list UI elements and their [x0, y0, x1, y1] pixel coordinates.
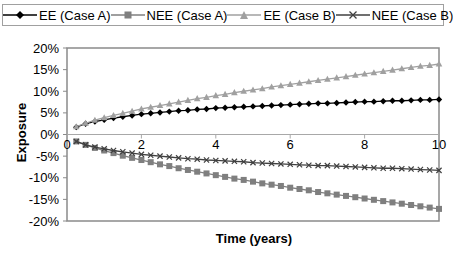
legend-item-nee-case-b: NEE (Case B) — [336, 8, 453, 23]
y-tick-label: -5% — [36, 149, 60, 164]
x-tick-label: 8 — [361, 137, 368, 152]
x-tick-label: 6 — [287, 137, 294, 152]
y-tick-label: 0% — [40, 127, 59, 142]
y-axis-title: Exposure — [14, 98, 29, 168]
legend-item-ee-case-b: EE (Case B) — [227, 8, 335, 23]
x-tick-label: 10 — [432, 137, 446, 152]
diamond-marker-icon — [3, 10, 37, 20]
y-tick-label: 5% — [40, 105, 59, 120]
x-tick-label: 0 — [63, 137, 70, 152]
y-tick-label: -20% — [29, 214, 60, 229]
legend-item-ee-case-a: EE (Case A) — [3, 8, 111, 23]
triangle-marker-icon — [227, 10, 261, 20]
square-marker-icon — [111, 10, 145, 20]
legend-item-nee-case-a: NEE (Case A) — [111, 8, 228, 23]
legend-label: EE (Case A) — [39, 8, 111, 23]
y-tick-label: 10% — [33, 84, 59, 99]
x-marker-icon — [336, 10, 370, 20]
legend-label: EE (Case B) — [263, 8, 335, 23]
chart-legend: EE (Case A) NEE (Case A) EE (Case B) NEE… — [2, 4, 444, 26]
x-tick-label: 2 — [138, 137, 145, 152]
legend-label: NEE (Case B) — [372, 8, 453, 23]
y-tick-label: 15% — [33, 62, 59, 77]
legend-label: NEE (Case A) — [147, 8, 228, 23]
x-tick-label: 4 — [212, 137, 219, 152]
y-tick-label: 20% — [33, 41, 59, 56]
y-tick-label: -15% — [29, 192, 60, 207]
y-tick-label: -10% — [29, 170, 60, 185]
x-axis-title: Time (years) — [0, 231, 448, 246]
